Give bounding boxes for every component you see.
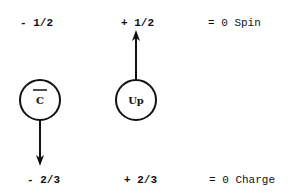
quark-charge-value: + 2/3 — [124, 174, 157, 186]
anticharm-quark: C — [20, 80, 60, 166]
meson-diagram: C Up — [0, 0, 291, 194]
antiquark-charge-value: - 2/3 — [27, 174, 60, 186]
charge-total: = 0 Charge — [209, 174, 275, 186]
anticharm-label: C — [36, 95, 44, 106]
up-quark: Up — [116, 30, 156, 120]
up-label: Up — [128, 95, 144, 106]
